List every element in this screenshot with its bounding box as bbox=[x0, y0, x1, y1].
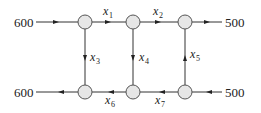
label-x3: x 3 bbox=[89, 50, 100, 66]
arrow-down-icon bbox=[131, 55, 135, 61]
arrow-up-icon bbox=[183, 55, 187, 61]
node-bottom-right bbox=[178, 85, 192, 99]
label-output-top-right: 500 bbox=[225, 15, 245, 30]
flow-network-diagram: 600 500 600 500 x 1 x 2 x 3 x 4 x 5 x 6 … bbox=[0, 0, 261, 113]
label-x6: x 6 bbox=[104, 93, 115, 109]
label-x7: x 7 bbox=[154, 93, 165, 109]
svg-text:5: 5 bbox=[196, 54, 200, 63]
arrow-left-icon bbox=[206, 90, 212, 94]
arrow-right-icon bbox=[204, 20, 210, 24]
label-output-bottom-left: 600 bbox=[14, 85, 34, 100]
svg-text:x: x bbox=[102, 4, 109, 18]
svg-text:3: 3 bbox=[96, 57, 100, 66]
svg-text:x: x bbox=[189, 47, 196, 61]
arrow-left-icon bbox=[58, 90, 64, 94]
node-bottom-left bbox=[78, 85, 92, 99]
arrow-right-icon bbox=[105, 20, 111, 24]
label-input-top-left: 600 bbox=[14, 15, 34, 30]
arrow-right-icon bbox=[53, 20, 59, 24]
svg-text:x: x bbox=[89, 50, 96, 64]
node-top-middle bbox=[126, 15, 140, 29]
node-top-right bbox=[178, 15, 192, 29]
label-x2: x 2 bbox=[152, 4, 163, 20]
label-x5: x 5 bbox=[189, 47, 200, 63]
svg-text:2: 2 bbox=[159, 11, 163, 20]
svg-text:1: 1 bbox=[109, 11, 113, 20]
svg-text:x: x bbox=[138, 50, 145, 64]
label-x1: x 1 bbox=[102, 4, 113, 20]
arrow-down-icon bbox=[83, 55, 87, 61]
svg-text:7: 7 bbox=[161, 100, 165, 109]
arrow-right-icon bbox=[155, 20, 161, 24]
svg-text:6: 6 bbox=[111, 100, 115, 109]
svg-text:x: x bbox=[104, 93, 111, 107]
node-bottom-middle bbox=[126, 85, 140, 99]
label-x4: x 4 bbox=[138, 50, 149, 66]
svg-text:x: x bbox=[152, 4, 159, 18]
svg-text:4: 4 bbox=[145, 57, 149, 66]
node-top-left bbox=[78, 15, 92, 29]
label-input-bottom-right: 500 bbox=[225, 85, 245, 100]
svg-text:x: x bbox=[154, 93, 161, 107]
